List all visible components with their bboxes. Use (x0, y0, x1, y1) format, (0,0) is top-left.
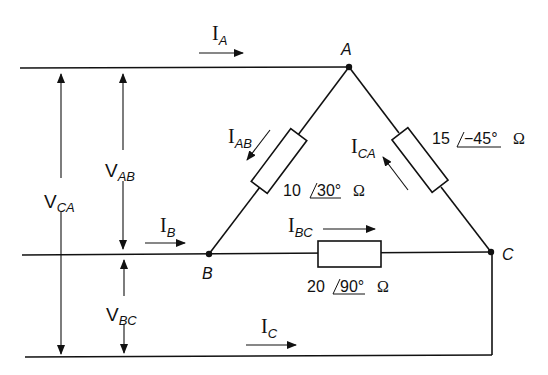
line-c (25, 355, 492, 357)
vbc-label: VBC (106, 304, 137, 328)
svg-text:15: 15 (432, 130, 450, 147)
impedance-ca-label: 15 −45° Ω (432, 130, 525, 147)
iab-label: IAB (228, 125, 252, 151)
vca-label: VCA (44, 191, 75, 215)
ica-label: ICA (351, 135, 376, 161)
svg-text:Ω: Ω (377, 278, 389, 295)
line-b (22, 252, 491, 255)
ic-label: IC (261, 315, 278, 341)
supply-lines (20, 67, 492, 357)
svg-text:30°: 30° (317, 182, 341, 199)
branch-ca-wire-top (349, 67, 399, 133)
resistor-bc (318, 241, 381, 267)
node-c-label: C (502, 246, 514, 263)
ib-label: IB (160, 214, 176, 240)
node-b-label: B (202, 265, 213, 282)
delta-circuit-diagram: A B C VCA VAB VBC IA IB IC (0, 0, 548, 375)
node-a-label: A (340, 41, 352, 58)
angle-symbol-icon (457, 132, 464, 147)
svg-text:−45°: −45° (464, 130, 498, 147)
ibc-label: IBC (288, 214, 313, 240)
delta-branches (209, 67, 491, 267)
branch-ca-wire-bottom (441, 187, 491, 252)
node-a (346, 64, 352, 70)
current-arrows (145, 53, 408, 345)
node-b (206, 251, 212, 257)
ia-label: IA (212, 22, 227, 48)
impedance-ab-label: 10 30° Ω (283, 182, 365, 199)
svg-text:Ω: Ω (353, 182, 365, 199)
impedance-bc-label: 20 90° Ω (307, 278, 389, 295)
branch-ab-wire-top (298, 67, 349, 135)
svg-text:10: 10 (283, 182, 301, 199)
line-a (20, 67, 349, 68)
ica-arrow (383, 157, 408, 190)
svg-text:20: 20 (307, 278, 325, 295)
angle-symbol-icon (333, 279, 340, 294)
angle-symbol-icon (310, 183, 317, 198)
svg-text:Ω: Ω (513, 130, 525, 147)
branch-ab-wire-bottom (209, 187, 260, 254)
vab-label: VAB (105, 160, 135, 184)
node-c (488, 249, 494, 255)
svg-text:90°: 90° (340, 278, 364, 295)
